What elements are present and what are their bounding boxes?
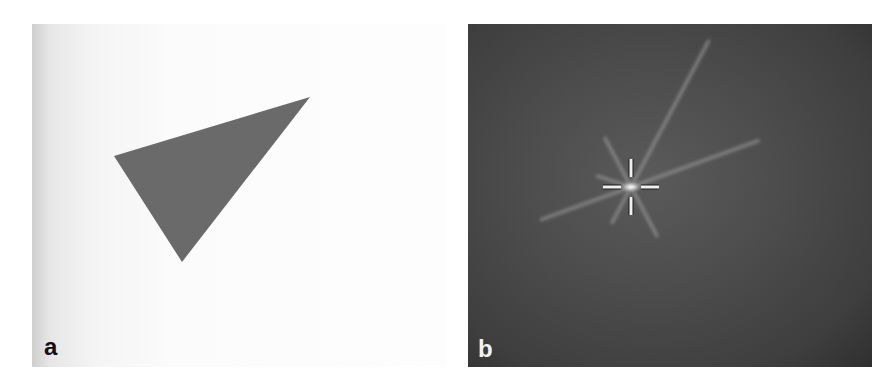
bright-center-spot [619,181,643,193]
star-field-graphic [468,24,872,367]
radiating-streaks [542,41,758,235]
dark-triangle [114,97,310,262]
streak-ray [631,187,657,236]
triangle-graphic [32,24,447,367]
panel-a: a [32,24,447,367]
panel-label-a: a [44,335,57,359]
panel-b: b [468,24,872,367]
panel-label-b: b [478,337,493,361]
